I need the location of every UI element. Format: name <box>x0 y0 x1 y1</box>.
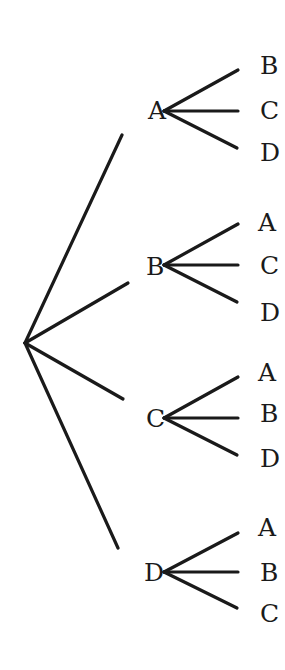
node-label-a: A <box>147 96 167 125</box>
leaf-label-d-c: C <box>260 599 279 628</box>
tree-edges <box>25 70 238 608</box>
second-level-branch-b-d <box>164 265 237 302</box>
node-label-b: B <box>146 252 164 281</box>
tree-labels: ABCDBACDCABDDABC <box>144 51 280 628</box>
node-label-c: C <box>146 404 165 433</box>
tree-diagram: ABCDBACDCABDDABC <box>0 0 285 670</box>
first-level-branch-d <box>25 343 118 548</box>
leaf-label-c-d: D <box>260 444 280 473</box>
leaf-label-a-d: D <box>260 138 280 167</box>
leaf-label-d-b: B <box>260 558 278 587</box>
leaf-label-a-c: C <box>260 96 279 125</box>
first-level-branch-c <box>25 343 123 399</box>
leaf-label-c-a: A <box>257 358 277 387</box>
leaf-label-a-b: B <box>260 51 278 80</box>
second-level-branch-a-b <box>164 70 238 111</box>
second-level-branch-c-d <box>164 418 237 455</box>
second-level-branch-d-a <box>164 533 238 572</box>
first-level-branch-a <box>25 135 122 343</box>
second-level-branch-d-c <box>164 572 237 608</box>
node-label-d: D <box>144 558 164 587</box>
second-level-branch-c-a <box>164 377 238 418</box>
leaf-label-c-b: B <box>260 399 278 428</box>
leaf-label-d-a: A <box>257 513 277 542</box>
second-level-branch-b-a <box>164 224 238 265</box>
second-level-branch-a-d <box>164 111 237 148</box>
leaf-label-b-a: A <box>257 208 277 237</box>
leaf-label-b-c: C <box>260 251 279 280</box>
leaf-label-b-d: D <box>260 298 280 327</box>
